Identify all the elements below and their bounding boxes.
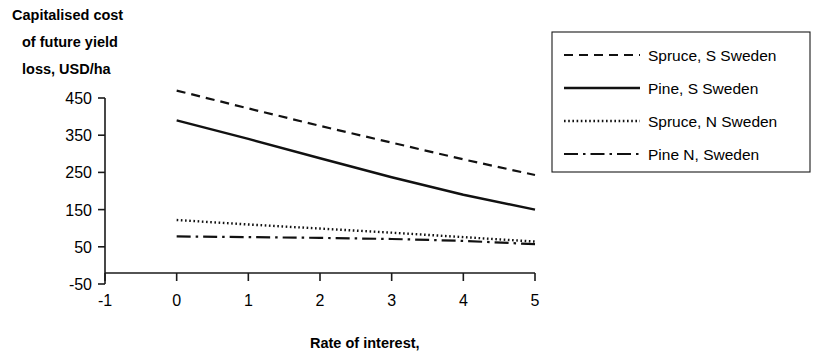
legend-label-1: Spruce, S Sweden — [648, 47, 776, 64]
series-line-spruce-s-sweden — [177, 91, 535, 175]
y-axis-title-line-1: Capitalised cost — [12, 7, 123, 23]
x-axis-tick-labels: -1012345 — [98, 292, 540, 309]
chart-series-group — [177, 91, 535, 245]
y-axis-tick-label: 50 — [74, 239, 92, 256]
chart-axes — [98, 98, 535, 284]
x-axis-tick-label: 2 — [316, 292, 325, 309]
x-axis-tick-label: 4 — [459, 292, 468, 309]
x-axis-tick-label: -1 — [98, 292, 112, 309]
x-axis-tick-label: 0 — [172, 292, 181, 309]
y-axis-title: Capitalised cost of future yield loss, U… — [12, 7, 123, 77]
series-line-pine-n-sweden — [177, 236, 535, 244]
legend-label-4: Pine N, Sweden — [648, 146, 759, 163]
x-axis-title: Rate of interest, — [310, 335, 420, 351]
chart-container: Capitalised cost of future yield loss, U… — [0, 0, 821, 355]
x-axis-tick-label: 5 — [531, 292, 540, 309]
y-axis-tick-label: 350 — [65, 127, 92, 144]
legend-label-3: Spruce, N Sweden — [648, 113, 777, 130]
y-axis-title-line-3: loss, USD/ha — [22, 61, 112, 77]
legend-label-2: Pine, S Sweden — [648, 80, 758, 97]
x-axis-tick-label: 3 — [387, 292, 396, 309]
y-axis-tick-label: 450 — [65, 90, 92, 107]
y-axis-tick-labels: 45035025015050-50 — [65, 90, 92, 293]
line-chart: Capitalised cost of future yield loss, U… — [0, 0, 821, 355]
y-axis-tick-label: 150 — [65, 202, 92, 219]
y-axis-tick-label: 250 — [65, 164, 92, 181]
y-axis-tick-label: -50 — [69, 276, 92, 293]
y-axis-title-line-2: of future yield — [22, 34, 118, 50]
x-axis-tick-label: 1 — [244, 292, 253, 309]
chart-legend: Spruce, S SwedenPine, S SwedenSpruce, N … — [552, 32, 810, 172]
